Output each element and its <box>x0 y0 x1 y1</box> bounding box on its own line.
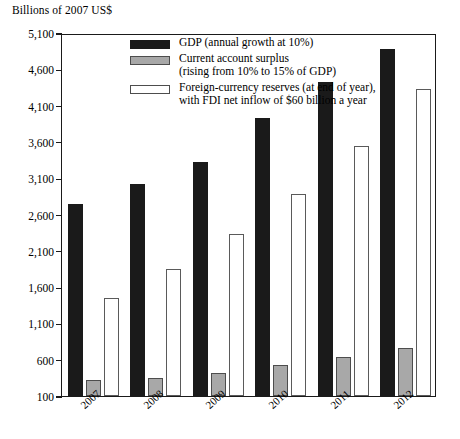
y-axis-tick-label: 3,600 <box>2 137 54 149</box>
chart-container: Billions of 2007 US$ 1006001,1001,6002,1… <box>0 0 460 439</box>
legend-swatch-surplus <box>130 56 170 65</box>
bar-reserves-2010 <box>291 194 306 396</box>
y-axis-tick-label: 5,100 <box>2 29 54 41</box>
legend-item-reserves: Foreign-currency reserves (at end of yea… <box>130 81 430 108</box>
bar-reserves-2012 <box>416 89 431 396</box>
y-axis-tick-label: 2,100 <box>2 246 54 258</box>
bar-reserves-2011 <box>354 146 369 396</box>
legend-item-surplus: Current account surplus (rising from 10%… <box>130 52 430 79</box>
y-axis-tick-label: 4,600 <box>2 65 54 77</box>
chart-legend: GDP (annual growth at 10%)Current accoun… <box>130 36 430 110</box>
y-axis-tick-label: 4,100 <box>2 101 54 113</box>
bar-gdp-2010 <box>255 118 270 396</box>
y-axis-tick-label: 1,600 <box>2 283 54 295</box>
y-axis-tick-label: 600 <box>2 355 54 367</box>
y-axis-title: Billions of 2007 US$ <box>12 4 112 16</box>
legend-swatch-reserves <box>130 85 170 94</box>
y-axis-tick-label: 2,600 <box>2 210 54 222</box>
bar-group <box>62 35 125 396</box>
legend-label-surplus: Current account surplus (rising from 10%… <box>179 52 336 79</box>
y-axis-tick-label: 3,100 <box>2 174 54 186</box>
y-axis-tick-label: 1,100 <box>2 319 54 331</box>
y-axis-tick-label: 100 <box>2 392 54 404</box>
bar-gdp-2009 <box>193 162 208 396</box>
bar-reserves-2008 <box>166 269 181 396</box>
legend-swatch-gdp <box>130 40 170 49</box>
bar-reserves-2009 <box>229 234 244 396</box>
bar-gdp-2011 <box>318 82 333 396</box>
legend-item-gdp: GDP (annual growth at 10%) <box>130 36 430 50</box>
bar-reserves-2007 <box>104 298 119 396</box>
legend-label-reserves: Foreign-currency reserves (at end of yea… <box>179 81 376 108</box>
legend-label-gdp: GDP (annual growth at 10%) <box>179 36 313 50</box>
bar-gdp-2008 <box>130 184 145 396</box>
bar-gdp-2007 <box>68 204 83 396</box>
